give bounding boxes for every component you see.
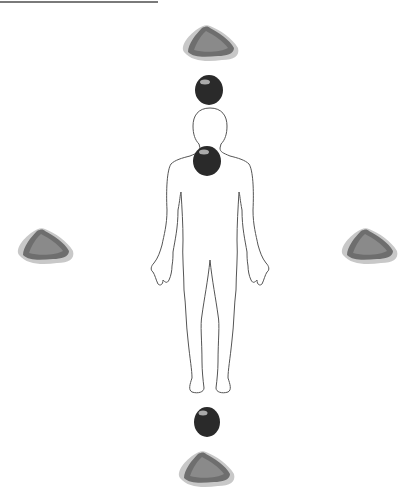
round-stone-below-feet xyxy=(192,405,222,439)
top-rule xyxy=(0,1,158,3)
flat-stone-left xyxy=(13,225,77,267)
round-stone-neck xyxy=(191,144,223,178)
flat-stone-top xyxy=(178,22,242,64)
flat-stone-right xyxy=(337,225,401,267)
flat-stone-bottom xyxy=(174,448,238,490)
round-stone-above-head xyxy=(193,73,225,107)
